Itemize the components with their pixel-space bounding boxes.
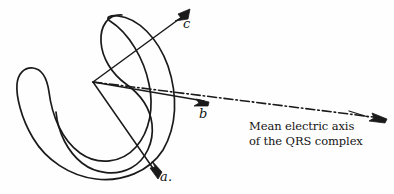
vector-a-label: a.: [160, 170, 172, 183]
vector-b-label: b: [199, 107, 208, 120]
vector-c-label: c: [183, 17, 190, 30]
inner-loop-path: [56, 15, 152, 173]
vectorcardiogram-figure: a. b c Mean electric axis of the QRS com…: [0, 0, 394, 194]
mean-electric-axis-caption-line-2: of the QRS complex: [249, 134, 394, 149]
mean-electric-axis-caption-line-1: Mean electric axis: [249, 119, 394, 134]
figure-drawing-canvas: [0, 0, 394, 194]
mean-electric-axis-line: [93, 82, 381, 118]
mean-electric-axis-caption: Mean electric axis of the QRS complex: [249, 119, 394, 149]
